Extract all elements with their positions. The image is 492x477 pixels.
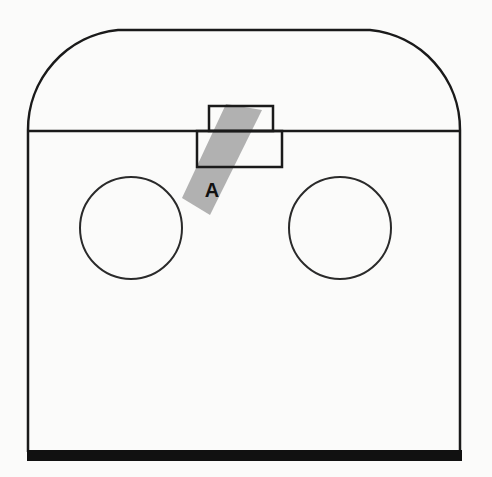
- diagram-canvas: A: [0, 0, 492, 477]
- shaded-strip: [182, 104, 262, 215]
- bottom-bar: [27, 450, 462, 461]
- label-a: A: [205, 179, 219, 201]
- right-circle: [289, 177, 391, 279]
- outer-body-outline: [28, 30, 460, 452]
- left-circle: [80, 177, 182, 279]
